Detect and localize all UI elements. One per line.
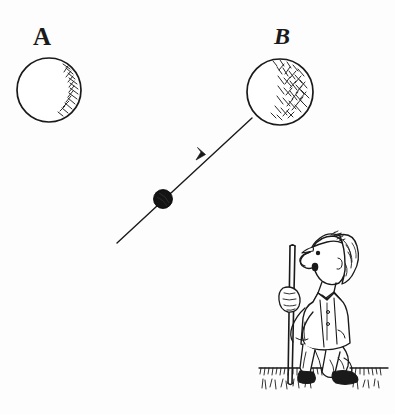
vest — [301, 293, 350, 350]
trajectory-arrowhead — [196, 148, 206, 161]
mouth — [312, 263, 319, 271]
physics-diagram-figure: A B — [0, 0, 395, 414]
projectile-ball — [154, 190, 173, 209]
label-b: B — [274, 24, 290, 48]
golf-club — [288, 245, 295, 385]
circle-b — [247, 59, 313, 125]
eye — [316, 251, 320, 255]
hand — [279, 287, 300, 312]
golfer-figure — [279, 231, 359, 384]
grass-tufts — [262, 379, 379, 389]
label-a: A — [33, 24, 51, 49]
turf-hatching — [260, 368, 381, 375]
trajectory-line — [117, 118, 252, 243]
circle-a — [17, 58, 81, 122]
figure-drawing-surface — [0, 0, 395, 414]
